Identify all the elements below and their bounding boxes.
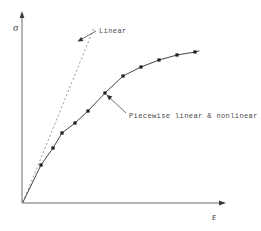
data-point-marker: [157, 58, 160, 61]
data-point-marker: [39, 163, 42, 166]
data-point-marker: [139, 65, 142, 68]
data-point-marker: [193, 50, 196, 53]
y-axis-label: σ: [13, 22, 19, 33]
data-point-marker: [60, 131, 63, 134]
data-point-marker: [86, 109, 89, 112]
data-point-marker: [73, 121, 76, 124]
stress-strain-figure: σ ε Linear Piecewise linear & nonli: [0, 0, 261, 231]
linear-annotation-label: Linear: [99, 27, 127, 35]
data-point-marker: [103, 91, 106, 94]
x-axis-label: ε: [212, 211, 216, 222]
data-point-marker: [51, 146, 54, 149]
piecewise-annotation-label: Piecewise linear & nonlinear: [129, 112, 258, 120]
data-point-marker: [121, 74, 124, 77]
data-point-marker: [175, 53, 178, 56]
